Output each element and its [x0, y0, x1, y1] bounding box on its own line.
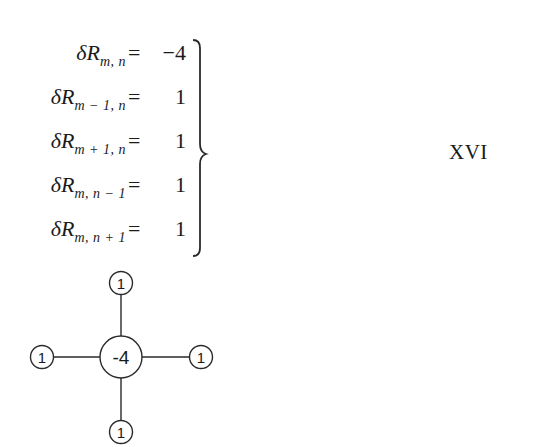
equation-row-m-minus-1-n: δRm − 1, n = 1: [0, 82, 190, 122]
equation-lhs: δRm + 1, n: [51, 128, 126, 158]
delta-r-symbol: δR: [51, 84, 75, 109]
equals-sign: =: [128, 128, 140, 154]
subscript: m, n: [100, 54, 126, 69]
equals-sign: =: [128, 40, 140, 66]
right-node-value: 1: [197, 349, 205, 366]
equation-lhs: δRm − 1, n: [51, 84, 126, 114]
equation-value: −4: [163, 40, 186, 66]
equation-lhs: δRm, n − 1: [51, 172, 126, 202]
subscript: m + 1, n: [74, 142, 126, 157]
delta-r-symbol: δR: [51, 172, 75, 197]
subscript: m, n + 1: [74, 230, 126, 245]
equals-sign: =: [128, 172, 140, 198]
equals-sign: =: [128, 84, 140, 110]
subscript: m, n − 1: [74, 186, 126, 201]
bottom-node-value: 1: [117, 424, 125, 441]
equation-number-label: XVI: [449, 140, 488, 165]
equation-lhs: δRm, n: [76, 40, 126, 70]
center-node-value: -4: [113, 347, 130, 368]
equation-value: 1: [175, 84, 186, 110]
equation-row-m-n-plus-1: δRm, n + 1 = 1: [0, 214, 190, 254]
left-node-value: 1: [38, 349, 46, 366]
equation-value: 1: [175, 172, 186, 198]
equation-value: 1: [175, 128, 186, 154]
subscript: m − 1, n: [74, 98, 126, 113]
top-node-value: 1: [117, 275, 125, 292]
equation-value: 1: [175, 216, 186, 242]
equation-row-m-n: δRm, n = −4: [0, 38, 190, 78]
equation-row-m-n-minus-1: δRm, n − 1 = 1: [0, 170, 190, 210]
delta-r-symbol: δR: [51, 216, 75, 241]
delta-r-symbol: δR: [76, 40, 100, 65]
five-point-stencil-diagram: -4 1 1 1 1: [0, 260, 240, 447]
equals-sign: =: [128, 216, 140, 242]
equation-row-m-plus-1-n: δRm + 1, n = 1: [0, 126, 190, 166]
right-curly-brace: [190, 36, 220, 261]
delta-r-symbol: δR: [51, 128, 75, 153]
equation-lhs: δRm, n + 1: [51, 216, 126, 246]
